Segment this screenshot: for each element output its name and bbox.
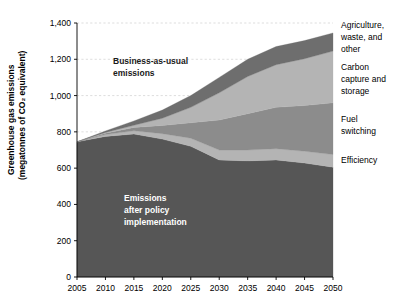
legend-item-efficiency: Efficiency: [341, 155, 378, 165]
stacked-area-chart: 02004006008001,0001,2001,400 20052010201…: [0, 0, 405, 302]
y-tick-label-200: 200: [57, 236, 71, 246]
emissions-after-policy-annotation-line-2: after policy: [124, 205, 170, 215]
y-tick-label-1200: 1,200: [50, 54, 72, 64]
x-tick-label-2035: 2035: [238, 283, 257, 293]
legend-fuel-switching-line-2: switching: [341, 126, 376, 136]
y-axis-title: Greenhouse gas emissions (megatonnes of …: [6, 50, 27, 180]
x-tick-label-2045: 2045: [295, 283, 314, 293]
legend-efficiency-line-1: Efficiency: [341, 155, 378, 165]
x-tick-label-2020: 2020: [153, 283, 172, 293]
y-tick-label-400: 400: [57, 199, 71, 209]
x-tick-label-2010: 2010: [96, 283, 115, 293]
x-tick-label-2005: 2005: [68, 283, 87, 293]
y-tick-label-800: 800: [57, 127, 71, 137]
legend-agriculture-line-3: other: [341, 44, 361, 54]
legend-ccs-line-3: storage: [341, 86, 370, 96]
legend-ccs-line-1: Carbon: [341, 62, 369, 72]
legend-agriculture-line-2: waste, and: [340, 32, 382, 42]
y-axis-title-line-1: Greenhouse gas emissions: [6, 64, 16, 175]
chart-container: 02004006008001,0001,2001,400 20052010201…: [0, 0, 405, 302]
business-as-usual-annotation-line-2: emissions: [113, 68, 155, 78]
y-tick-label-0: 0: [66, 272, 71, 282]
y-tick-label-1000: 1,000: [50, 91, 72, 101]
x-tick-label-2015: 2015: [124, 283, 143, 293]
y-tick-label-600: 600: [57, 163, 71, 173]
business-as-usual-annotation-line-1: Business-as-usual: [113, 56, 188, 66]
y-tick-label-1400: 1,400: [50, 18, 72, 28]
legend-ccs-line-2: capture and: [341, 74, 386, 84]
legend-fuel-switching-line-1: Fuel: [341, 114, 358, 124]
x-tick-label-2040: 2040: [267, 283, 286, 293]
emissions-after-policy-annotation-line-1: Emissions: [124, 193, 167, 203]
x-tick-label-2030: 2030: [210, 283, 229, 293]
y-axis-title-line-2: (megatonnes of CO₂ equivalent): [17, 50, 27, 180]
legend-agriculture-line-1: Agriculture,: [341, 20, 384, 30]
x-tick-label-2025: 2025: [181, 283, 200, 293]
emissions-after-policy-annotation-line-3: implementation: [124, 217, 187, 227]
x-tick-label-2050: 2050: [324, 283, 343, 293]
